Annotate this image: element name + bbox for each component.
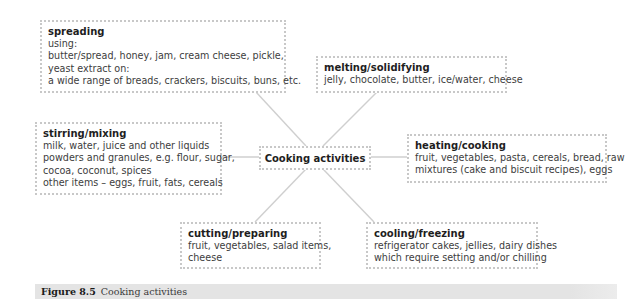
node-title: stirring/mixing xyxy=(43,128,214,140)
node-melting: melting/solidifying jelly, chocolate, bu… xyxy=(316,56,507,93)
node-line: using: xyxy=(48,38,278,50)
node-line: fruit, vegetables, pasta, cereals, bread… xyxy=(415,152,599,164)
node-cutting: cutting/preparing fruit, vegetables, sal… xyxy=(180,222,321,269)
node-line: yeast extract on: xyxy=(48,63,278,75)
node-line: a wide range of breads, crackers, biscui… xyxy=(48,75,278,87)
node-line: milk, water, juice and other liquids xyxy=(43,140,214,152)
node-line: butter/spread, honey, jam, cream cheese,… xyxy=(48,50,278,62)
node-title: heating/cooking xyxy=(415,140,599,152)
node-line: which require setting and/or chilling xyxy=(374,252,530,264)
connector-cooling xyxy=(323,169,374,222)
figure-number: Figure 8.5 xyxy=(41,286,96,297)
node-stirring: stirring/mixing milk, water, juice and o… xyxy=(35,122,222,195)
node-cooling: cooling/freezing refrigerator cakes, jel… xyxy=(366,222,538,269)
node-line: other items – eggs, fruit, fats, cereals xyxy=(43,177,214,189)
center-node: Cooking activities xyxy=(259,146,371,170)
connector-spreading xyxy=(256,92,306,146)
node-line: jelly, chocolate, butter, ice/water, che… xyxy=(324,74,499,86)
figure-caption-text: Cooking activities xyxy=(101,286,187,297)
node-line: refrigerator cakes, jellies, dairy dishe… xyxy=(374,240,530,252)
node-line: powders and granules, e.g. flour, sugar, xyxy=(43,152,214,164)
node-line: cheese xyxy=(188,252,313,264)
node-line: cocoa, coconut, spices xyxy=(43,165,214,177)
node-title: cutting/preparing xyxy=(188,228,313,240)
node-line: fruit, vegetables, salad items, xyxy=(188,240,313,252)
node-heating: heating/cooking fruit, vegetables, pasta… xyxy=(407,134,607,183)
connector-cutting xyxy=(255,169,306,222)
connector-melting xyxy=(323,92,377,146)
figure-caption: Figure 8.5Cooking activities xyxy=(35,284,617,299)
center-label: Cooking activities xyxy=(265,153,366,164)
node-spreading: spreading using: butter/spread, honey, j… xyxy=(40,20,286,93)
node-title: melting/solidifying xyxy=(324,62,499,74)
node-line: mixtures (cake and biscuit recipes), egg… xyxy=(415,164,599,176)
node-title: cooling/freezing xyxy=(374,228,530,240)
node-title: spreading xyxy=(48,26,278,38)
